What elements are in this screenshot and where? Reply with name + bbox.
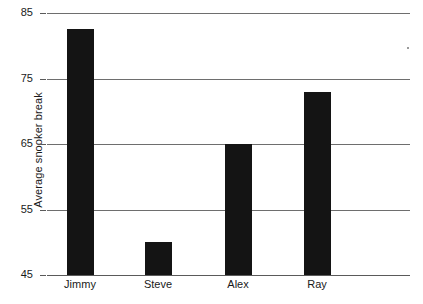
gridline [47,275,410,276]
y-axis-title: Average snooker break [32,50,44,250]
x-axis-label-jimmy: Jimmy [40,279,120,290]
y-axis-tick-label: 75 [7,73,33,84]
tick-mark [40,275,46,276]
gridline [47,13,410,14]
x-axis-label-steve: Steve [118,279,198,290]
y-axis-tick-label: 55 [7,204,33,215]
stray-speck-artifact [407,47,409,49]
bar-ray[interactable] [304,92,331,275]
tick-mark [40,79,46,80]
bar-jimmy[interactable] [67,29,94,275]
gridline [47,79,410,80]
tick-mark [40,210,46,211]
y-axis-tick-label: 85 [7,7,33,18]
tick-mark [40,144,46,145]
bar-steve[interactable] [145,242,172,275]
y-axis-tick-label: 65 [7,138,33,149]
tick-mark [40,13,46,14]
plot-area: 8575655545 [47,13,410,275]
y-axis-tick-label: 45 [7,269,33,280]
x-axis-label-alex: Alex [198,279,278,290]
x-axis-label-ray: Ray [277,279,357,290]
bar-alex[interactable] [225,144,252,275]
bar-chart: Average snooker break 8575655545 JimmySt… [0,0,423,304]
